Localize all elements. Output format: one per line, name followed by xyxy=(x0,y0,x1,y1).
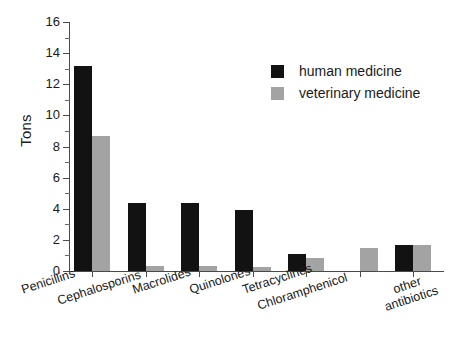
bar-human-medicine xyxy=(74,66,92,271)
y-minor-tick-mark xyxy=(65,162,70,163)
y-tick-label: 2 xyxy=(34,233,60,246)
y-tick-mark xyxy=(63,178,70,179)
y-minor-tick-mark xyxy=(65,131,70,132)
bar-human-medicine xyxy=(395,245,413,271)
y-axis-title: Tons xyxy=(17,109,34,153)
bar-veterinary-medicine xyxy=(253,267,271,271)
x-tick-mark xyxy=(92,272,93,277)
y-tick-label-wrap: 16 xyxy=(34,15,60,28)
y-tick-mark xyxy=(63,240,70,241)
y-minor-tick-mark xyxy=(65,255,70,256)
bar-veterinary-medicine xyxy=(360,248,378,271)
x-axis-label: other antibiotics xyxy=(374,269,445,315)
y-tick-label: 4 xyxy=(34,202,60,215)
y-tick-mark xyxy=(63,84,70,85)
x-tick-mark xyxy=(199,272,200,277)
bar-human-medicine xyxy=(235,210,253,271)
legend-swatch-icon xyxy=(271,87,284,100)
y-tick-mark xyxy=(63,115,70,116)
y-tick-label: 6 xyxy=(34,171,60,184)
bar-veterinary-medicine xyxy=(413,245,431,271)
bar-veterinary-medicine xyxy=(146,266,164,271)
y-tick-label: 16 xyxy=(34,15,60,28)
y-tick-mark xyxy=(63,22,70,23)
y-minor-tick-mark xyxy=(65,193,70,194)
x-tick-mark xyxy=(146,272,147,277)
y-tick-label-wrap: 4 xyxy=(34,202,60,215)
legend-label: veterinary medicine xyxy=(299,85,420,101)
y-tick-label: 10 xyxy=(34,108,60,121)
y-minor-tick-mark xyxy=(65,69,70,70)
chart-legend: human medicineveterinary medicine xyxy=(271,60,420,104)
y-tick-label: 14 xyxy=(34,46,60,59)
x-tick-mark xyxy=(360,272,361,277)
y-tick-label-wrap: 6 xyxy=(34,171,60,184)
bar-veterinary-medicine xyxy=(199,266,217,271)
y-tick-mark xyxy=(63,209,70,210)
bar-chart: Tons 0246810121416 PenicillinsCephalospo… xyxy=(0,0,462,354)
y-minor-tick-mark xyxy=(65,100,70,101)
legend-item: veterinary medicine xyxy=(271,82,420,104)
bar-human-medicine xyxy=(181,203,199,271)
legend-item: human medicine xyxy=(271,60,420,82)
y-tick-label-wrap: 2 xyxy=(34,233,60,246)
legend-label: human medicine xyxy=(299,63,402,79)
bar-human-medicine xyxy=(128,203,146,271)
y-tick-label-wrap: 8 xyxy=(34,140,60,153)
y-tick-label: 12 xyxy=(34,77,60,90)
y-minor-tick-mark xyxy=(65,224,70,225)
y-tick-label-wrap: 14 xyxy=(34,46,60,59)
y-tick-mark xyxy=(63,147,70,148)
y-tick-label-wrap: 12 xyxy=(34,77,60,90)
x-tick-mark xyxy=(253,272,254,277)
y-tick-mark xyxy=(63,53,70,54)
legend-swatch-icon xyxy=(271,65,284,78)
y-tick-label: 8 xyxy=(34,140,60,153)
y-tick-label-wrap: 10 xyxy=(34,108,60,121)
bar-veterinary-medicine xyxy=(92,136,110,271)
y-minor-tick-mark xyxy=(65,38,70,39)
